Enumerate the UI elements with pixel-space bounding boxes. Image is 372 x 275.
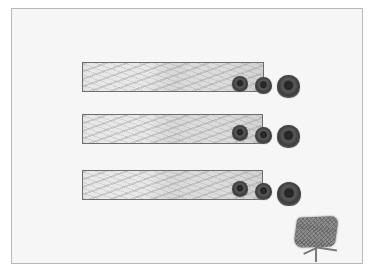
shrub-branch-right [317,247,337,252]
rock-icon-large [277,125,300,148]
rock-icon-medium [255,183,272,200]
rock-icon-small [232,76,248,92]
rock-icon-medium [255,127,272,144]
rock-icon-large [277,182,301,206]
rock-icon-large [277,75,300,98]
rock-icon-small [232,125,248,141]
rock-icon-small [232,181,248,197]
shrub-icon [293,214,347,264]
rock-icon-medium [255,77,272,94]
